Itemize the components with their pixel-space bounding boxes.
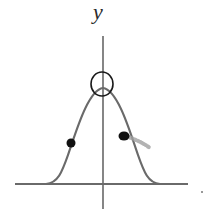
diagram-canvas — [0, 0, 205, 209]
smudge-mark — [126, 136, 150, 148]
bell-curve — [15, 88, 188, 184]
left-inflection-dot — [67, 139, 76, 148]
right-inflection-dot — [119, 132, 130, 141]
peak-circle — [91, 72, 113, 96]
bell-curve-diagram: y — [0, 0, 205, 209]
y-axis-label: y — [93, 1, 103, 23]
stray-dot — [201, 191, 203, 193]
